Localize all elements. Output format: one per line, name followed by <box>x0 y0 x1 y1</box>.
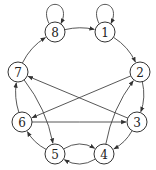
node-label: 6 <box>18 116 26 130</box>
edge-8-to-8 <box>47 4 64 23</box>
node-1: 1 <box>95 22 115 42</box>
edge-3-to-4 <box>114 131 132 149</box>
node-label: 1 <box>101 26 109 40</box>
edge-2-to-3 <box>141 82 144 112</box>
node-7: 7 <box>8 62 28 82</box>
node-8: 8 <box>45 22 65 42</box>
edge-7-to-8 <box>22 38 45 63</box>
node-label: 5 <box>51 148 59 162</box>
edge-8-to-1 <box>65 28 95 30</box>
node-3: 3 <box>127 112 147 132</box>
node-label: 3 <box>133 116 141 130</box>
directed-graph: 12345678 <box>0 0 156 170</box>
node-label: 4 <box>100 148 108 162</box>
edge-5-to-4 <box>64 144 95 149</box>
edge-4-to-5 <box>64 159 95 164</box>
node-label: 8 <box>51 26 59 40</box>
edge-6-to-7 <box>16 83 19 113</box>
node-4: 4 <box>94 144 114 164</box>
edge-1-to-2 <box>114 37 136 62</box>
edge-1-to-1 <box>97 4 114 23</box>
node-label: 7 <box>14 66 22 80</box>
node-2: 2 <box>130 62 150 82</box>
node-6: 6 <box>12 112 32 132</box>
node-label: 2 <box>136 66 144 80</box>
edge-5-to-6 <box>27 132 46 150</box>
node-5: 5 <box>45 144 65 164</box>
